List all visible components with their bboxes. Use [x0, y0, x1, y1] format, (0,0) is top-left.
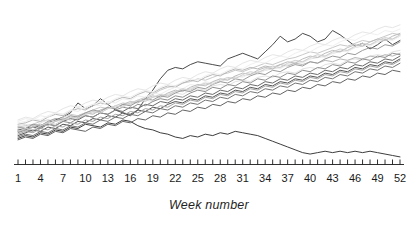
x-tick-label-52: 52: [390, 172, 410, 184]
x-tick-label-7: 7: [53, 172, 73, 184]
x-tick-label-25: 25: [188, 172, 208, 184]
x-tick-label-10: 10: [75, 172, 95, 184]
x-tick-label-4: 4: [30, 172, 50, 184]
series-line-series-12: [18, 120, 400, 157]
x-tick-label-34: 34: [255, 172, 275, 184]
x-tick-label-16: 16: [120, 172, 140, 184]
series-line-series-7: [18, 53, 400, 133]
x-tick-label-22: 22: [165, 172, 185, 184]
x-axis-title: Week number: [0, 198, 418, 212]
x-tick-label-28: 28: [210, 172, 230, 184]
chart-plot-area: [0, 0, 418, 231]
x-tick-label-31: 31: [233, 172, 253, 184]
x-tick-label-37: 37: [278, 172, 298, 184]
x-tick-label-19: 19: [143, 172, 163, 184]
x-tick-label-40: 40: [300, 172, 320, 184]
x-tick-label-49: 49: [368, 172, 388, 184]
week-number-line-chart: 147101316192225283134374043464952 Week n…: [0, 0, 418, 231]
x-tick-label-46: 46: [345, 172, 365, 184]
series-line-series-2: [18, 33, 400, 127]
x-axis: [14, 160, 404, 165]
series-lines: [18, 25, 400, 157]
x-tick-label-13: 13: [98, 172, 118, 184]
x-tick-label-43: 43: [323, 172, 343, 184]
series-line-series-18: [18, 70, 400, 140]
x-tick-label-1: 1: [8, 172, 28, 184]
